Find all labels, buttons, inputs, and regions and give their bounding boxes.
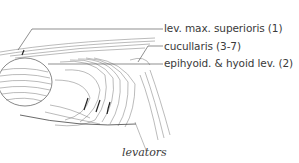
figure-caption: levators [122, 146, 167, 159]
label-cucullaris: cucullaris (3-7) [164, 40, 241, 52]
anatomical-figure: lev. max. superioris (1) cucullaris (3-7… [0, 0, 299, 163]
leader-line-2 [138, 46, 163, 62]
label-epihyoid-hyoid-lev: epihyoid. & hyoid lev. (2) [164, 57, 293, 69]
label-lev-max-superioris: lev. max. superioris (1) [164, 22, 282, 34]
leader-line-1 [18, 29, 163, 50]
